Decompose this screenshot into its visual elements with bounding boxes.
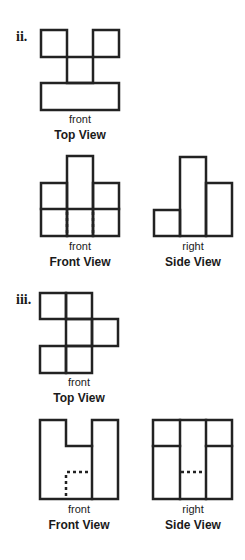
problem-iii: iii. front Top View front Front View <box>16 292 232 532</box>
view-title: Top View <box>54 128 106 142</box>
view-title: Side View <box>165 518 221 532</box>
problem-label: ii. <box>16 29 27 44</box>
direction-label: right <box>182 240 203 252</box>
view-title: Front View <box>48 518 110 532</box>
view-title: Side View <box>165 255 221 269</box>
direction-label: right <box>182 503 203 515</box>
view-title: Top View <box>53 391 105 405</box>
front-view-ii: front Front View <box>41 156 119 269</box>
direction-label: front <box>68 376 90 388</box>
front-view-iii: front Front View <box>40 420 118 532</box>
top-view-iii: front Top View <box>40 293 118 405</box>
side-view-iii: right Side View <box>153 420 232 532</box>
top-view-ii: front Top View <box>41 30 119 142</box>
problem-ii: ii. front Top View front Front View <box>16 29 232 269</box>
view-title: Front View <box>49 255 111 269</box>
direction-label: front <box>69 113 91 125</box>
problem-label: iii. <box>16 292 31 307</box>
direction-label: front <box>68 503 90 515</box>
side-view-ii: right Side View <box>154 157 232 269</box>
direction-label: front <box>69 240 91 252</box>
orthographic-views-diagram: ii. front Top View front Front View <box>0 0 245 560</box>
